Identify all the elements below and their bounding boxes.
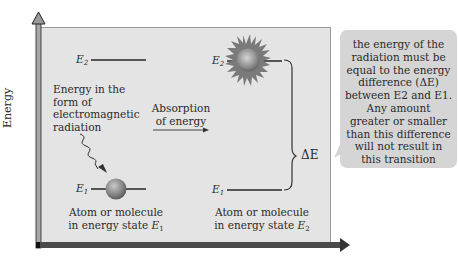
absorption-arrow — [153, 128, 209, 133]
left-state-caption: Atom or molecule in energy state E1 — [60, 206, 172, 235]
radiation-description: Energy in the form of electromagnetic ra… — [53, 83, 140, 133]
energy-axis-arrow — [32, 12, 45, 248]
absorption-label: Absorption of energy — [143, 102, 219, 127]
delta-e-bracket — [284, 60, 296, 190]
energy-axis-label: Energy — [2, 88, 15, 128]
callout-box: the energy of the radiation must be equa… — [340, 30, 457, 168]
photon-wave-arrow — [80, 134, 107, 173]
left-e2-label: E2 — [76, 53, 88, 67]
horizontal-axis-arrow — [36, 238, 350, 252]
callout-text: the energy of the radiation must be equa… — [340, 30, 457, 166]
left-e1-label: E1 — [76, 182, 88, 196]
right-e2-label: E2 — [212, 54, 224, 68]
ground-state-atom — [106, 179, 127, 200]
right-state-caption: Atom or molecule in energy state E2 — [212, 206, 312, 235]
delta-e-label: ΔE — [301, 148, 318, 162]
right-e1-label: E1 — [212, 183, 224, 197]
